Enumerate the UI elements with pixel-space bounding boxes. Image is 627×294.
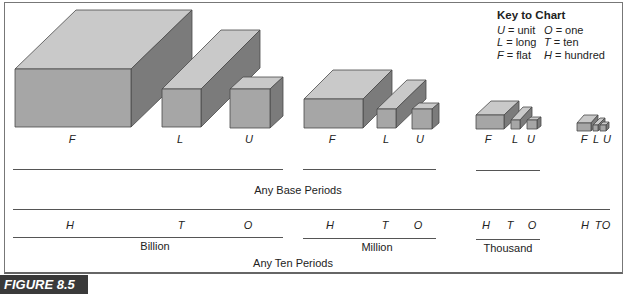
place-one: O — [244, 219, 253, 231]
key-symbol: U — [497, 24, 505, 36]
block-label-flat: F — [581, 133, 588, 145]
divider-line — [13, 209, 610, 210]
block-label-unit: U — [603, 133, 611, 145]
period-name-million: Million — [361, 241, 392, 253]
block-label-flat: F — [485, 133, 492, 145]
key-symbol: H — [544, 49, 552, 61]
block-label-long: L — [593, 133, 599, 145]
figure-label: FIGURE 8.5 — [0, 275, 88, 294]
place-one: O — [528, 219, 537, 231]
key-symbol: T — [544, 36, 551, 48]
place-hundred: H — [66, 219, 74, 231]
unit-block-front — [600, 125, 606, 131]
key-meaning: = long — [506, 36, 536, 48]
key-symbol: O — [544, 24, 553, 36]
figure-caption-clipped — [98, 287, 248, 294]
any-base-periods-label: Any Base Periods — [254, 184, 341, 196]
unit-block-front — [527, 120, 537, 129]
place-hundred: H — [482, 219, 490, 231]
key-row: F = flat H = hundred — [497, 49, 605, 62]
unit-block-front — [230, 89, 270, 128]
place-ten: T — [382, 219, 389, 231]
unit-block — [230, 77, 283, 128]
key-meaning: = hundred — [555, 49, 605, 61]
long-block-front — [593, 125, 598, 131]
ten-period-line-thousand — [476, 239, 540, 240]
period-name-billion: Billion — [140, 240, 169, 252]
long-block-front — [511, 120, 520, 129]
ten-period-line-million — [303, 238, 436, 239]
block-label-flat: F — [69, 133, 76, 145]
place-ten: T — [178, 219, 185, 231]
key-meaning: = flat — [507, 49, 531, 61]
key-meaning: = ten — [554, 36, 579, 48]
place-ten: T — [595, 219, 602, 231]
place-hundred: H — [581, 219, 589, 231]
unit-block — [600, 122, 609, 131]
place-ten: T — [507, 219, 514, 231]
unit-block — [412, 103, 439, 129]
base-period-line-billion — [13, 169, 283, 170]
key-meaning: = one — [556, 24, 584, 36]
block-label-flat: F — [329, 133, 336, 145]
key-title: Key to Chart — [497, 9, 605, 22]
any-ten-periods-label: Any Ten Periods — [253, 257, 333, 269]
block-label-unit: U — [416, 133, 424, 145]
base-period-line-million — [303, 169, 436, 170]
place-one: O — [414, 219, 423, 231]
place-one: O — [602, 219, 611, 231]
unit-block-front — [412, 109, 432, 129]
unit-block — [527, 117, 541, 129]
ten-period-line-billion — [13, 237, 283, 238]
block-label-unit: U — [245, 133, 253, 145]
flat-block-front — [476, 115, 504, 129]
key-to-chart: Key to Chart U = unit O = one L = long T… — [497, 9, 605, 61]
base-period-line-thousand — [476, 170, 540, 171]
block-label-long: L — [512, 133, 518, 145]
key-symbol: F — [497, 49, 504, 61]
long-block-front — [377, 109, 396, 128]
flat-block-front — [15, 69, 131, 127]
place-hundred: H — [326, 219, 334, 231]
key-row: U = unit O = one — [497, 24, 605, 37]
key-meaning: = unit — [508, 24, 535, 36]
flat-block-front — [577, 123, 591, 131]
block-label-long: L — [383, 133, 389, 145]
period-name-thousand: Thousand — [484, 242, 533, 254]
block-label-unit: U — [527, 133, 535, 145]
key-row: L = long T = ten — [497, 36, 605, 49]
long-block-front — [162, 89, 201, 127]
block-label-long: L — [177, 133, 183, 145]
key-symbol: L — [497, 36, 503, 48]
flat-block-front — [304, 99, 363, 128]
